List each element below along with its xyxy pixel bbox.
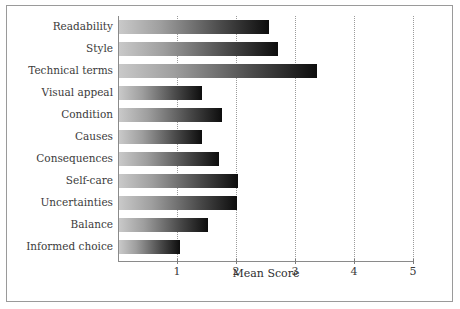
category-label: Technical terms xyxy=(0,64,113,76)
bar xyxy=(119,86,202,100)
bar xyxy=(119,240,180,254)
x-tick-mark xyxy=(236,259,237,264)
x-axis-title: Mean Score xyxy=(118,267,414,280)
bar-row xyxy=(118,60,414,82)
bar xyxy=(119,152,219,166)
category-label: Informed choice xyxy=(0,240,113,252)
bar-row xyxy=(118,148,414,170)
chart-figure: 12345 ReadabilityStyleTechnical termsVis… xyxy=(0,0,460,309)
bar-row xyxy=(118,82,414,104)
bar-row xyxy=(118,214,414,236)
bar-row xyxy=(118,236,414,258)
bar xyxy=(119,108,222,122)
bar xyxy=(119,130,202,144)
x-tick-mark xyxy=(413,259,414,264)
bar xyxy=(119,196,237,210)
category-label: Uncertainties xyxy=(0,196,113,208)
x-tick-mark xyxy=(177,259,178,264)
category-label: Balance xyxy=(0,218,113,230)
category-label: Readability xyxy=(0,20,113,32)
bar-row xyxy=(118,126,414,148)
x-tick-mark xyxy=(295,259,296,264)
bar xyxy=(119,218,208,232)
x-tick-mark xyxy=(354,259,355,264)
category-label: Consequences xyxy=(0,152,113,164)
plot-area xyxy=(118,16,414,262)
category-label: Style xyxy=(0,42,113,54)
category-label: Visual appeal xyxy=(0,86,113,98)
bar-row xyxy=(118,192,414,214)
bar xyxy=(119,20,269,34)
category-label: Self-care xyxy=(0,174,113,186)
category-label: Condition xyxy=(0,108,113,120)
bar-row xyxy=(118,16,414,38)
x-axis-line xyxy=(118,261,414,262)
bar xyxy=(119,174,238,188)
bar-row xyxy=(118,104,414,126)
bar xyxy=(119,64,317,78)
bar-row xyxy=(118,38,414,60)
bar-row xyxy=(118,170,414,192)
category-label: Causes xyxy=(0,130,113,142)
bar xyxy=(119,42,278,56)
